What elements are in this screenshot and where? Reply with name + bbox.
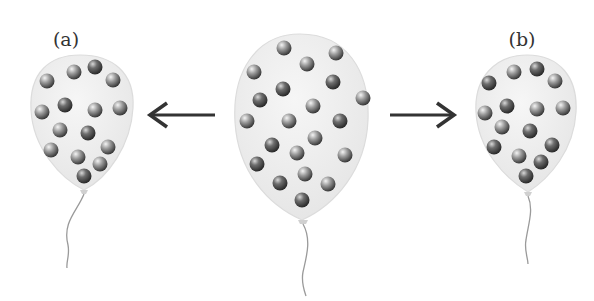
gas-molecule — [282, 114, 297, 129]
gas-molecule — [519, 169, 534, 184]
gas-molecule — [290, 146, 305, 161]
gas-molecule — [300, 57, 315, 72]
balloon-a — [31, 55, 133, 268]
gas-molecule — [308, 131, 323, 146]
gas-molecule — [534, 155, 549, 170]
gas-molecule — [478, 106, 493, 121]
gas-molecule — [512, 149, 527, 164]
label-a: (a) — [53, 28, 79, 50]
gas-molecule — [93, 157, 108, 172]
gas-molecule — [240, 114, 255, 129]
balloon-center-knot — [298, 220, 308, 224]
gas-molecule — [88, 103, 103, 118]
gas-molecule — [276, 82, 291, 97]
gas-molecule — [295, 193, 310, 208]
gas-molecule — [333, 114, 348, 129]
gas-molecule — [273, 176, 288, 191]
gas-molecule — [326, 75, 341, 90]
gas-molecule — [44, 143, 59, 158]
gas-molecule — [495, 120, 510, 135]
gas-molecule — [482, 76, 497, 91]
gas-molecule — [247, 65, 262, 80]
gas-molecule — [530, 62, 545, 77]
gas-molecule — [338, 148, 353, 163]
gas-molecule — [58, 98, 73, 113]
gas-molecule — [556, 101, 571, 116]
gas-molecule — [321, 177, 336, 192]
gas-molecule — [548, 74, 563, 89]
gas-molecule — [500, 99, 515, 114]
label-b: (b) — [509, 28, 536, 50]
gas-molecule — [71, 150, 86, 165]
balloon-center — [235, 34, 371, 296]
gas-molecule — [265, 138, 280, 153]
gas-molecule — [81, 126, 96, 141]
balloon-gas-diagram: (a) (b) — [0, 0, 594, 301]
gas-molecule — [306, 99, 321, 114]
arrow-right-icon — [390, 103, 454, 127]
gas-molecule — [77, 169, 92, 184]
balloon-center-string — [302, 224, 307, 296]
gas-molecule — [329, 46, 344, 61]
gas-molecule — [277, 41, 292, 56]
gas-molecule — [40, 74, 55, 89]
gas-molecule — [106, 73, 121, 88]
gas-molecule — [35, 105, 50, 120]
gas-molecule — [530, 102, 545, 117]
gas-molecule — [253, 93, 268, 108]
arrow-left-icon — [150, 103, 215, 127]
gas-molecule — [487, 140, 502, 155]
balloon-b — [476, 55, 576, 264]
gas-molecule — [507, 65, 522, 80]
gas-molecule — [356, 91, 371, 106]
balloon-b-knot — [524, 192, 532, 196]
gas-molecule — [250, 157, 265, 172]
balloon-b-string — [525, 196, 530, 264]
balloon-a-string — [67, 194, 84, 268]
gas-molecule — [298, 167, 313, 182]
gas-molecule — [53, 123, 68, 138]
gas-molecule — [101, 140, 116, 155]
balloon-a-knot — [80, 190, 88, 194]
gas-molecule — [67, 65, 82, 80]
gas-molecule — [545, 138, 560, 153]
gas-molecule — [523, 124, 538, 139]
gas-molecule — [88, 60, 103, 75]
gas-molecule — [113, 101, 128, 116]
